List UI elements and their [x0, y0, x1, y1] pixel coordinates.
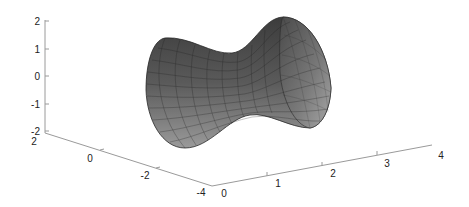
z-tick: 1	[34, 44, 40, 55]
x-tick: 1	[275, 178, 281, 189]
z-tick: 0	[34, 71, 40, 82]
z-tick: 2	[34, 16, 40, 27]
x-tick: 2	[330, 168, 336, 179]
z-tick: -1	[31, 99, 40, 110]
x-tick: 3	[384, 158, 390, 169]
surface-plot-figure: 2 1 0 -1 -2 2 0 -2 -4 0 1 2 3 4	[0, 0, 469, 207]
y-tick: 0	[87, 153, 93, 164]
y-tick: -4	[197, 187, 206, 198]
y-tick: 2	[31, 136, 37, 147]
z-tick-labels: 2 1 0 -1 -2	[31, 16, 40, 137]
x-tick: 0	[221, 188, 227, 199]
x-tick: 4	[438, 150, 444, 161]
hyperboloid-surface	[146, 17, 331, 148]
plot-canvas: 2 1 0 -1 -2 2 0 -2 -4 0 1 2 3 4	[0, 0, 469, 207]
y-tick: -2	[141, 170, 150, 181]
x-tick-labels: 0 1 2 3 4	[221, 150, 444, 199]
